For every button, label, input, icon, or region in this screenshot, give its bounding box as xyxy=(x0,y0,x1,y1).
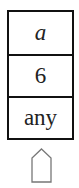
stack-diagram: a 6 any xyxy=(7,10,74,140)
stack-cell-6: 6 xyxy=(9,54,72,96)
stack-cell-any: any xyxy=(9,96,72,138)
pentagon-up-arrow-icon xyxy=(30,147,54,185)
stack-cell-a: a xyxy=(9,12,72,54)
